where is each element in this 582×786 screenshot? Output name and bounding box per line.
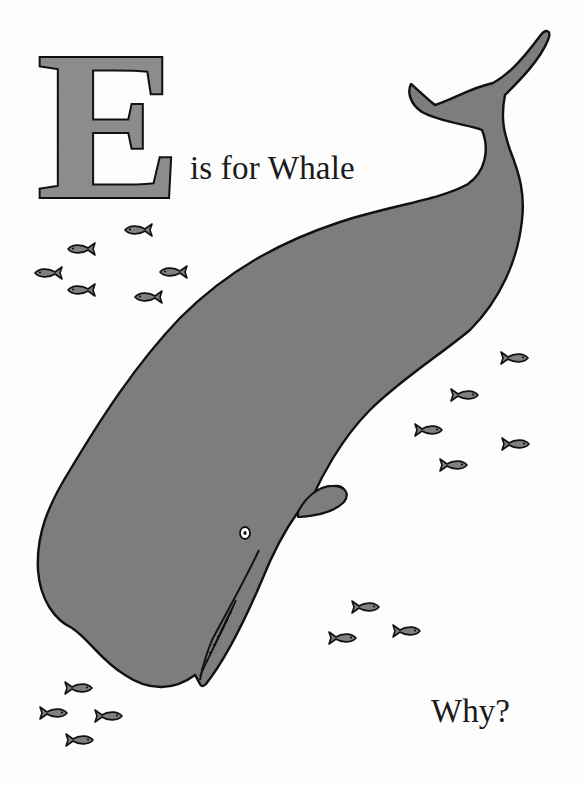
fish-icon [415, 424, 442, 436]
fish-icon [95, 710, 122, 722]
fish-icon [65, 682, 92, 694]
fish-icon [352, 601, 379, 613]
fish-icon [40, 707, 67, 719]
whale-eye [240, 527, 250, 539]
fish-icon [66, 734, 93, 746]
fish-school-right [415, 352, 529, 471]
fish-school-lower-middle [329, 601, 420, 644]
fish-icon [329, 632, 356, 644]
whale-body [38, 31, 550, 687]
fish-icon [35, 267, 62, 279]
caption-text: is for Whale [190, 150, 355, 187]
book-page: E [0, 0, 582, 786]
question-text: Why? [431, 693, 510, 730]
fish-icon [502, 438, 529, 450]
fish-icon [160, 266, 187, 278]
fish-icon [501, 352, 528, 364]
fish-school-bottom-left [40, 682, 122, 746]
fish-icon [393, 625, 420, 637]
fish-icon [125, 224, 152, 236]
fish-icon [68, 284, 95, 296]
fish-icon [451, 389, 478, 401]
whale-illustration [0, 0, 582, 786]
fish-icon [68, 243, 95, 255]
fish-icon [440, 459, 467, 471]
fish-icon [135, 291, 162, 303]
fish-school-upper-left [35, 224, 187, 303]
